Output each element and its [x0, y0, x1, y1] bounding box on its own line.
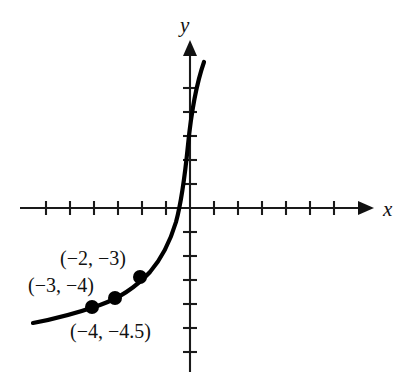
- point-marker-minus2-minus3: [133, 270, 147, 284]
- coordinate-plane-svg: y x (−2, −3) (−3, −4) (−4, −4.5): [0, 0, 404, 381]
- annotation-point-3: (−4, −4.5): [70, 320, 151, 343]
- annotation-point-1: (−2, −3): [60, 247, 126, 270]
- x-axis-arrow-icon: [358, 201, 374, 215]
- y-axis-label: y: [178, 13, 190, 37]
- y-axis-arrow-icon: [183, 40, 197, 56]
- graph-figure: y x (−2, −3) (−3, −4) (−4, −4.5): [0, 0, 404, 381]
- point-marker-minus3-minus4: [108, 291, 122, 305]
- x-axis-label: x: [382, 197, 393, 221]
- annotation-point-2: (−3, −4): [28, 274, 94, 297]
- point-marker-minus4-minus45: [85, 300, 99, 314]
